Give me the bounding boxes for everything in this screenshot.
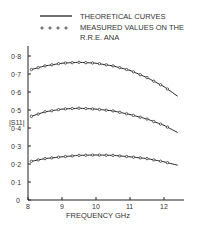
svg-text:8: 8 [26,203,30,210]
svg-text:0·3: 0·3 [11,143,21,150]
legend-line-label: THEORETICAL CURVES [80,12,165,21]
legend-marker-label-2: R.R.E. ANA [80,33,119,42]
svg-text:12: 12 [160,203,168,210]
chart: THEORETICAL CURVES MEASURED VALUES ON TH… [0,0,199,236]
series [30,61,177,165]
x-ticks: 89101112 [26,197,168,210]
svg-text:0·1: 0·1 [11,179,21,186]
svg-text:11: 11 [126,203,133,210]
svg-text:10: 10 [92,203,100,210]
y-axis-label: |S11| [9,119,25,127]
svg-text:0·8: 0·8 [11,53,21,60]
legend: THEORETICAL CURVES MEASURED VALUES ON TH… [40,12,184,42]
svg-text:0·7: 0·7 [11,71,21,78]
svg-text:0·2: 0·2 [11,161,21,168]
svg-text:9: 9 [60,203,64,210]
x-axis-label: FREQUENCY GHz [66,211,130,220]
svg-text:0·5: 0·5 [11,107,21,114]
svg-text:0: 0 [16,197,20,204]
svg-text:0·6: 0·6 [11,89,21,96]
legend-marker-label: MEASURED VALUES ON THE [80,23,184,32]
